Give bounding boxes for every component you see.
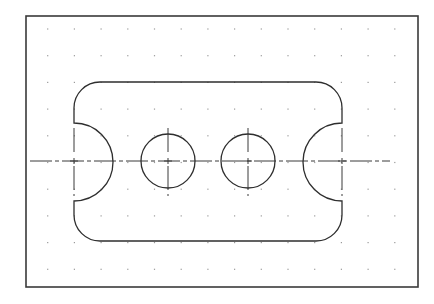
grid-dot xyxy=(47,189,48,190)
grid-dot xyxy=(127,28,128,29)
grid-dot xyxy=(368,55,369,56)
grid-dot xyxy=(47,55,48,56)
grid-dot xyxy=(181,162,182,163)
grid-dot xyxy=(154,28,155,29)
grid-dot xyxy=(234,269,235,270)
grid-dot xyxy=(101,242,102,243)
grid-dot xyxy=(47,215,48,216)
cad-drawing-canvas xyxy=(0,0,434,304)
grid-dot xyxy=(127,55,128,56)
grid-dot xyxy=(368,135,369,136)
grid-dot xyxy=(101,55,102,56)
grid-dot xyxy=(394,215,395,216)
grid-dot xyxy=(314,109,315,110)
grid-dot xyxy=(127,109,128,110)
grid-dot xyxy=(207,189,208,190)
technical-drawing xyxy=(0,0,434,304)
grid-dot xyxy=(394,109,395,110)
grid-dot xyxy=(127,269,128,270)
grid-dot xyxy=(154,135,155,136)
grid-dot xyxy=(261,28,262,29)
grid-dot xyxy=(181,215,182,216)
grid-dot xyxy=(47,28,48,29)
grid-dot xyxy=(394,135,395,136)
grid-dot xyxy=(47,162,48,163)
grid-dot xyxy=(261,109,262,110)
grid-dot xyxy=(261,162,262,163)
grid-dot xyxy=(101,162,102,163)
grid-dot xyxy=(74,82,75,83)
grid-dot xyxy=(101,109,102,110)
grid-dot xyxy=(74,269,75,270)
grid-dot xyxy=(287,135,288,136)
grid-dot xyxy=(207,135,208,136)
grid-dot xyxy=(181,55,182,56)
grid-dot xyxy=(127,135,128,136)
grid-dot xyxy=(394,269,395,270)
grid-dot xyxy=(74,28,75,29)
grid-dot xyxy=(207,55,208,56)
grid-dot xyxy=(234,189,235,190)
grid-dot xyxy=(127,162,128,163)
grid-dot xyxy=(287,162,288,163)
grid-dot xyxy=(394,28,395,29)
grid-dot xyxy=(207,242,208,243)
grid-dot xyxy=(154,162,155,163)
grid-dot xyxy=(234,215,235,216)
grid-dot xyxy=(261,135,262,136)
grid-dot xyxy=(368,269,369,270)
grid-dot xyxy=(47,135,48,136)
grid-dot xyxy=(181,189,182,190)
grid-dot xyxy=(207,269,208,270)
grid-dot xyxy=(261,242,262,243)
grid-dot xyxy=(287,109,288,110)
grid-dot xyxy=(234,135,235,136)
grid-dot xyxy=(154,55,155,56)
grid-dot xyxy=(287,269,288,270)
grid-dot xyxy=(287,242,288,243)
grid-dot xyxy=(314,162,315,163)
grid-dot xyxy=(74,55,75,56)
grid-dot xyxy=(154,269,155,270)
grid-dot xyxy=(181,109,182,110)
grid-dot xyxy=(207,109,208,110)
grid-dot xyxy=(368,82,369,83)
grid-dot xyxy=(127,242,128,243)
grid-dot xyxy=(287,215,288,216)
grid-dot xyxy=(341,55,342,56)
grid-dot xyxy=(368,189,369,190)
grid-dot xyxy=(368,215,369,216)
grid-dot xyxy=(287,189,288,190)
grid-dot xyxy=(207,162,208,163)
grid-dot xyxy=(261,269,262,270)
grid-dot xyxy=(261,215,262,216)
grid-dot xyxy=(341,269,342,270)
grid-dot xyxy=(234,162,235,163)
grid-dot xyxy=(101,28,102,29)
grid-dot xyxy=(101,135,102,136)
grid-dot xyxy=(314,269,315,270)
grid-dot xyxy=(154,215,155,216)
grid-dot xyxy=(234,28,235,29)
grid-dot xyxy=(207,215,208,216)
grid-dot xyxy=(127,189,128,190)
grid-dot xyxy=(154,242,155,243)
grid-dot xyxy=(314,55,315,56)
grid-dot xyxy=(314,242,315,243)
grid-dot xyxy=(368,109,369,110)
grid-dot xyxy=(47,82,48,83)
grid-dot xyxy=(341,82,342,83)
grid-dot xyxy=(181,135,182,136)
grid-dot xyxy=(341,28,342,29)
grid-dot xyxy=(207,28,208,29)
grid-dot xyxy=(394,55,395,56)
grid-dot xyxy=(47,242,48,243)
grid-dot xyxy=(261,55,262,56)
grid-dot xyxy=(314,215,315,216)
grid-dot xyxy=(154,109,155,110)
grid-dot xyxy=(368,242,369,243)
grid-dot xyxy=(234,242,235,243)
grid-dot xyxy=(394,162,395,163)
grid-dot xyxy=(181,28,182,29)
grid-dot xyxy=(394,82,395,83)
